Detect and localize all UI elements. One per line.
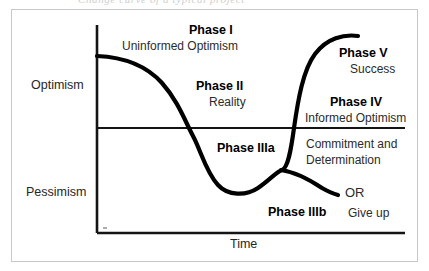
phase-ii-title: Phase II — [196, 80, 243, 93]
phase-v-subtitle: Success — [350, 63, 395, 76]
commitment-line-2: Determination — [306, 154, 381, 167]
phase-iiia-title: Phase IIIa — [217, 142, 275, 155]
give-up-branch — [281, 170, 338, 195]
commitment-line-1: Commitment and — [306, 138, 397, 151]
phase-iiib-title: Phase IIIb — [268, 206, 326, 219]
phase-i-subtitle: Uninformed Optimism — [122, 40, 238, 53]
phase-i-title: Phase I — [189, 24, 233, 37]
phase-v-title: Phase V — [339, 47, 388, 60]
phase-iv-subtitle: Informed Optimism — [305, 112, 406, 125]
phase-iv-title: Phase IV — [330, 96, 382, 109]
y-axis-label-pessimism: Pessimism — [26, 186, 86, 199]
y-axis-label-optimism: Optimism — [31, 79, 84, 92]
phase-ii-subtitle: Reality — [209, 96, 246, 109]
figure-page: Change curve of a typical project Optimi… — [0, 0, 429, 271]
or-annotation: OR — [345, 186, 365, 200]
x-axis-label-time: Time — [230, 238, 257, 251]
phase-iiib-subtitle: Give up — [348, 207, 389, 220]
